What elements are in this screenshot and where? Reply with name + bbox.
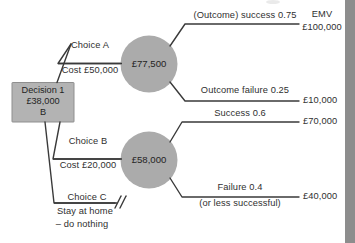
pruned-branch-marker — [115, 196, 126, 208]
decision-node-choice: B — [22, 108, 65, 119]
decision-node-label: Decision 1 — [22, 85, 65, 96]
outcome-a-failure-payoff: £10,000 — [303, 95, 337, 106]
emv-header-label: EMV — [312, 9, 332, 20]
decision-node-content: Decision 1 £38,000 B — [22, 85, 65, 119]
choice-c-line1: Stay at home — [57, 206, 113, 217]
outcome-b-failure-sublabel: (or less successful) — [199, 198, 281, 209]
chance-node-b-value: £58,000 — [132, 154, 167, 166]
outcome-b-failure-payoff: £40,000 — [303, 191, 337, 202]
choice-c-label: Choice C — [67, 192, 106, 203]
outcome-b-success-payoff: £70,000 — [303, 116, 337, 127]
outcome-a-success-payoff: £100,000 — [302, 22, 342, 33]
decision-node-value: £38,000 — [22, 96, 65, 107]
outcome-a-success-label: (Outcome) success 0.75 — [194, 10, 297, 21]
page-edge-bar — [345, 0, 355, 243]
choice-c-line2: – do nothing — [56, 219, 108, 230]
decision-tree-diagram: Decision 1 £38,000 B £77,500 £58,000 Cho… — [0, 0, 355, 243]
chance-node-a-value: £77,500 — [132, 58, 167, 70]
choice-b-label: Choice B — [69, 136, 108, 147]
choice-a-label: Choice A — [71, 40, 109, 51]
choice-a-cost: Cost £50,000 — [62, 65, 119, 76]
outcome-b-failure-label: Failure 0.4 — [217, 182, 262, 193]
outcome-a-failure-label: Outcome failure 0.25 — [201, 85, 289, 96]
choice-b-cost: Cost £20,000 — [60, 160, 117, 171]
outcome-b-success-label: Success 0.6 — [214, 108, 266, 119]
outcome-a-success-line — [170, 24, 299, 46]
tree-graphics — [0, 0, 355, 243]
outcome-b-success-line — [170, 122, 299, 142]
